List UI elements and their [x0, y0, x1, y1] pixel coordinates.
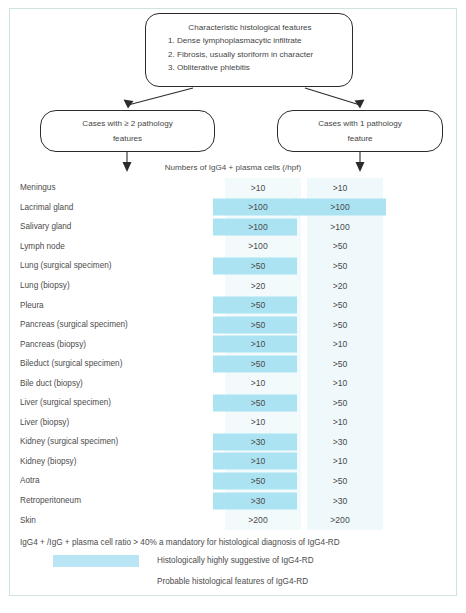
threshold-one-feature: >10 [299, 339, 381, 349]
threshold-two-or-more: >10 [217, 339, 299, 349]
table-row: Aotra>50>50 [9, 471, 457, 491]
threshold-value: >10 [251, 183, 266, 193]
table-row: Pancreas (surgical specimen)>50>50 [9, 315, 457, 335]
threshold-value: >50 [251, 398, 266, 408]
threshold-value: >50 [333, 398, 348, 408]
table-row: Lung (biopsy)>20>20 [9, 276, 457, 296]
threshold-value: >10 [333, 417, 348, 427]
threshold-one-feature: >200 [299, 515, 381, 525]
legend-row: Probable histological features of IgG4-R… [9, 571, 457, 592]
organ-label: Pleura [9, 301, 217, 310]
table-row: Bileduct (surgical specimen)>50>50 [9, 354, 457, 374]
threshold-two-or-more: >50 [217, 261, 299, 271]
threshold-two-or-more: >50 [217, 320, 299, 330]
threshold-one-feature: >50 [299, 320, 381, 330]
table-row: Pleura>50>50 [9, 295, 457, 315]
threshold-value: >50 [251, 261, 266, 271]
threshold-one-feature: >50 [299, 476, 381, 486]
organ-label: Lymph node [9, 242, 217, 251]
threshold-value: >30 [333, 437, 348, 447]
threshold-value: >10 [333, 378, 348, 388]
threshold-one-feature: >100 [299, 222, 381, 232]
threshold-one-feature: >50 [299, 261, 381, 271]
threshold-value: >50 [333, 241, 348, 251]
threshold-two-or-more: >10 [217, 456, 299, 466]
table-row: Liver (surgical specimen)>50>50 [9, 393, 457, 413]
organ-label: Salivary gland [9, 222, 217, 231]
threshold-value: >50 [333, 320, 348, 330]
legend-swatch [53, 576, 139, 588]
organ-label: Bileduct (surgical specimen) [9, 359, 217, 368]
threshold-value: >10 [333, 183, 348, 193]
threshold-two-or-more: >50 [217, 476, 299, 486]
table-row: Kidney (surgical specimen)>30>30 [9, 432, 457, 452]
threshold-value: >20 [251, 281, 266, 291]
table-row: Meningus>10>10 [9, 178, 457, 198]
organ-label: Skin [9, 516, 217, 525]
legend: Histologically highly suggestive of IgG4… [9, 550, 457, 592]
threshold-value: >100 [248, 222, 267, 232]
threshold-value: >50 [251, 359, 266, 369]
threshold-value: >100 [330, 202, 349, 212]
threshold-one-feature: >20 [299, 281, 381, 291]
threshold-two-or-more: >50 [217, 300, 299, 310]
left-box-line-1: Cases with ≥ 2 pathology [41, 116, 214, 131]
cases-one-feature-box: Cases with 1 pathology feature [277, 110, 443, 152]
threshold-value: >50 [333, 300, 348, 310]
threshold-value: >50 [333, 261, 348, 271]
cases-two-or-more-box: Cases with ≥ 2 pathology features [40, 110, 215, 152]
feature-item-3: 3. Obliterative phlebitis [154, 61, 344, 74]
threshold-value: >30 [251, 437, 266, 447]
threshold-two-or-more: >50 [217, 398, 299, 408]
threshold-value: >200 [248, 515, 267, 525]
table-row: Liver (biopsy)>10>10 [9, 413, 457, 433]
threshold-value: >30 [251, 496, 266, 506]
threshold-value: >50 [251, 476, 266, 486]
threshold-value: >200 [330, 515, 349, 525]
threshold-one-feature: >50 [299, 398, 381, 408]
left-box-line-2: features [41, 131, 214, 146]
threshold-one-feature: >10 [299, 417, 381, 427]
legend-row: Histologically highly suggestive of IgG4… [9, 550, 457, 571]
threshold-two-or-more: >100 [217, 202, 299, 212]
organ-label: Kidney (biopsy) [9, 457, 217, 466]
figure-root: Characteristic histological features 1. … [0, 0, 466, 613]
threshold-two-or-more: >20 [217, 281, 299, 291]
threshold-two-or-more: >10 [217, 417, 299, 427]
threshold-two-or-more: >200 [217, 515, 299, 525]
feature-item-2: 2. Fibrosis, usually storiform in charac… [154, 48, 344, 61]
table-row: Kidney (biopsy)>10>10 [9, 452, 457, 472]
table-row: Pancreas (biopsy)>10>10 [9, 334, 457, 354]
table-row: Bile duct (biopsy)>10>10 [9, 373, 457, 393]
table-row: Lung (surgical specimen)>50>50 [9, 256, 457, 276]
table-row: Lymph node>100>50 [9, 237, 457, 257]
organ-label: Pancreas (biopsy) [9, 340, 217, 349]
threshold-value: >50 [251, 300, 266, 310]
threshold-two-or-more: >10 [217, 378, 299, 388]
organ-label: Retroperitoneum [9, 496, 217, 505]
threshold-one-feature: >50 [299, 359, 381, 369]
legend-swatch [53, 555, 139, 567]
threshold-two-or-more: >10 [217, 183, 299, 193]
threshold-value: >10 [251, 456, 266, 466]
threshold-one-feature: >10 [299, 456, 381, 466]
threshold-value: >10 [251, 417, 266, 427]
threshold-two-or-more: >30 [217, 496, 299, 506]
features-box-title: Characteristic histological features [154, 21, 344, 34]
threshold-one-feature: >100 [299, 202, 381, 212]
table-row: Retroperitoneum>30>30 [9, 491, 457, 511]
threshold-value: >10 [333, 456, 348, 466]
threshold-value: >100 [248, 202, 267, 212]
organ-label: Kidney (surgical specimen) [9, 437, 217, 446]
organ-label: Liver (biopsy) [9, 418, 217, 427]
plasma-cell-count-label: Numbers of IgG4 + plasma cells (/hpf) [0, 163, 466, 172]
organ-label: Aotra [9, 476, 217, 485]
threshold-one-feature: >50 [299, 241, 381, 251]
organ-label: Lung (biopsy) [9, 281, 217, 290]
threshold-value: >100 [248, 241, 267, 251]
threshold-value: >20 [333, 281, 348, 291]
threshold-value: >50 [333, 476, 348, 486]
table-row: Skin>200>200 [9, 510, 457, 530]
threshold-one-feature: >30 [299, 437, 381, 447]
table-row: Salivary gland>100>100 [9, 217, 457, 237]
